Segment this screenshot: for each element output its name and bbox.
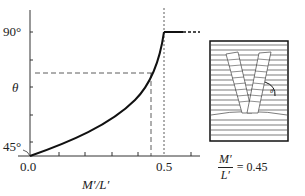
x-label-05: 0.5 — [156, 160, 172, 173]
x-ticks — [59, 152, 191, 156]
kink-band-inset — [210, 41, 288, 141]
y-label-90: 90° — [3, 25, 21, 38]
x-axis-title: M′/L′ — [82, 178, 109, 191]
frac-denominator: L′ — [221, 168, 230, 183]
ratio-equation: M′ L′ = 0.45 — [218, 152, 267, 183]
frac-numerator: M′ — [218, 152, 233, 168]
inset-theta-label: θ — [270, 88, 273, 95]
y-label-theta: θ — [12, 81, 18, 94]
angle-hook — [23, 150, 30, 156]
frac-value: = 0.45 — [237, 160, 268, 175]
theta-curve — [30, 32, 164, 156]
x-label-0: 0.0 — [20, 160, 36, 173]
y-label-45: 45° — [3, 140, 21, 153]
